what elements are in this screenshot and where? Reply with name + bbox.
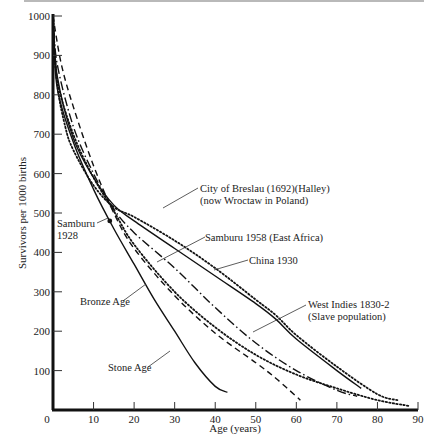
curve-bronze-age	[53, 16, 300, 400]
annotation-label: Samburu1928	[57, 218, 96, 241]
x-tick-label: 10	[88, 413, 100, 425]
curve-samburu-1958-east-africa	[53, 16, 410, 406]
y-axis-title: Survivors per 1000 births	[16, 157, 28, 269]
leader-line	[253, 305, 306, 332]
x-axis-title: Age (years)	[209, 422, 261, 435]
leader-line	[97, 218, 108, 223]
x-tick-label: 30	[169, 413, 181, 425]
y-tick-label: 600	[34, 168, 51, 180]
y-tick-label: 800	[34, 89, 51, 101]
curves-group	[53, 16, 410, 406]
annotation-label: Bronze Age	[80, 296, 130, 307]
x-tick-label: 90	[413, 413, 425, 425]
survivorship-chart: 0102030405060708090100200300400500600700…	[0, 0, 435, 445]
annotation-label: Samburu 1958 (East Africa)	[205, 232, 324, 244]
y-tick-label: 700	[34, 128, 51, 140]
y-tick-label: 900	[34, 49, 51, 61]
leader-line	[148, 351, 170, 367]
x-tick-label: 80	[372, 413, 384, 425]
y-tick-label: 400	[34, 246, 51, 258]
annotation-label: Stone Age	[108, 362, 152, 373]
point-samburu-1928	[107, 218, 112, 223]
leader-line	[163, 188, 198, 208]
y-tick-label: 200	[34, 325, 51, 337]
curve-west-indies-1830-2-slave-population	[53, 16, 357, 396]
y-tick-label: 100	[34, 365, 51, 377]
annotation-label: China 1930	[249, 255, 298, 266]
x-tick-label: 0	[44, 413, 50, 425]
leader-line	[214, 260, 248, 270]
annotations-group: City of Breslau (1692)(Halley)(now Wroct…	[57, 183, 389, 373]
y-tick-label: 500	[34, 207, 51, 219]
curve-city-of-breslau-1692-halley-now-wroctaw-in-poland	[53, 16, 398, 400]
x-tick-label: 60	[291, 413, 303, 425]
annotation-label: West Indies 1830-2(Slave population)	[308, 299, 389, 323]
leader-line	[123, 284, 146, 301]
annotation-label: City of Breslau (1692)(Halley)(now Wroct…	[200, 183, 330, 207]
y-tick-label: 300	[34, 286, 51, 298]
x-tick-label: 70	[331, 413, 343, 425]
y-tick-label: 1000	[28, 10, 51, 22]
x-tick-label: 20	[129, 413, 141, 425]
